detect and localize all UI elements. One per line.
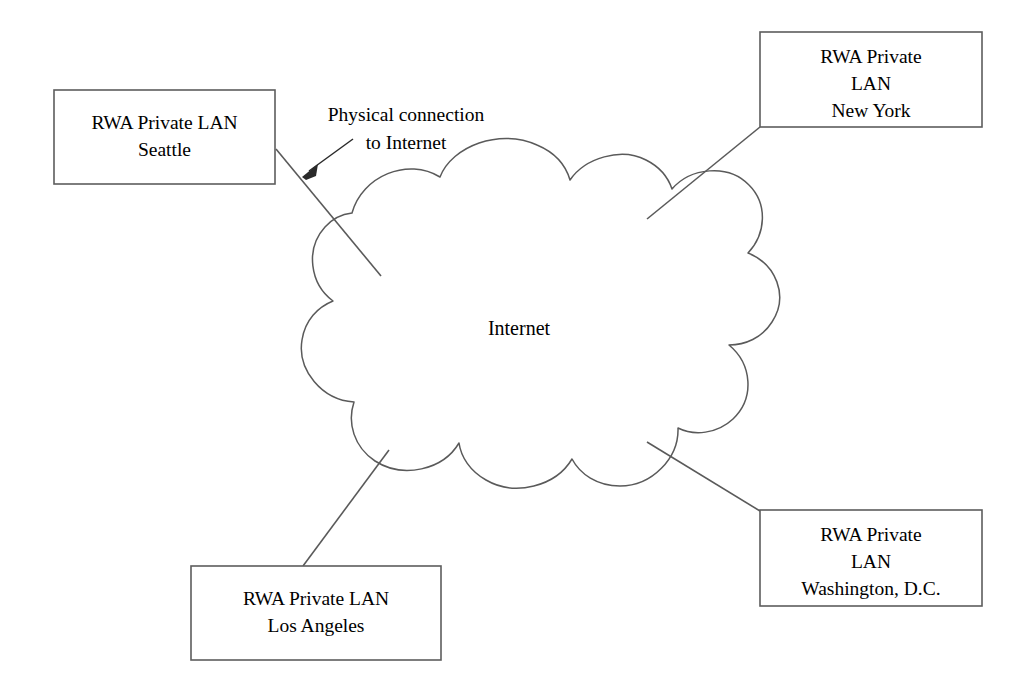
node-new-york[interactable]: RWA Private LAN New York <box>760 32 982 127</box>
node-los-angeles-line-1: RWA Private LAN <box>243 588 389 609</box>
node-washington-dc-line-3: Washington, D.C. <box>801 578 940 599</box>
node-washington-dc-line-2: LAN <box>851 551 891 572</box>
node-seattle-line-1: RWA Private LAN <box>91 112 237 133</box>
los-angeles-connector <box>303 450 389 566</box>
node-new-york-line-1: RWA Private <box>820 46 921 67</box>
node-washington-dc[interactable]: RWA Private LAN Washington, D.C. <box>760 510 982 606</box>
node-seattle-box[interactable] <box>54 90 275 184</box>
node-new-york-line-2: LAN <box>851 73 891 94</box>
internet-cloud-shape <box>301 138 779 488</box>
node-los-angeles-line-2: Los Angeles <box>268 615 365 636</box>
internet-cloud-label: Internet <box>488 317 551 339</box>
node-washington-dc-line-1: RWA Private <box>820 524 921 545</box>
node-seattle-line-2: Seattle <box>138 139 191 160</box>
annotation-arrow-head <box>302 164 318 180</box>
node-los-angeles-box[interactable] <box>191 566 441 660</box>
node-seattle[interactable]: RWA Private LAN Seattle <box>54 90 275 184</box>
washington-dc-connector <box>647 442 760 511</box>
annotation-line-1: Physical connection <box>328 104 485 125</box>
annotation-line-2: to Internet <box>366 132 447 153</box>
network-diagram: Internet Physical connection to Internet… <box>0 0 1031 696</box>
node-los-angeles[interactable]: RWA Private LAN Los Angeles <box>191 566 441 660</box>
node-new-york-line-3: New York <box>831 100 910 121</box>
diagram-canvas: Internet Physical connection to Internet… <box>0 0 1031 696</box>
